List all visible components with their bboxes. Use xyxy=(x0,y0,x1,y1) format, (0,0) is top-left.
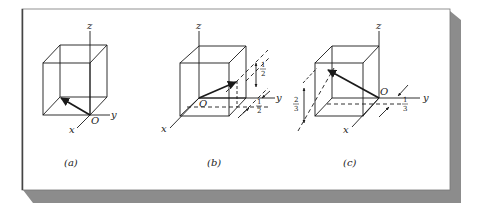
fraction-b-horizontal: 1 2 xyxy=(256,98,262,115)
origin-label-a: O xyxy=(91,115,99,126)
cube-direction-figure: z y x O (a) 1 2 1 xyxy=(0,0,481,211)
caption-b: (b) xyxy=(207,157,221,168)
y-label-a: y xyxy=(110,109,117,120)
y-label-b: y xyxy=(275,92,282,103)
fraction-c-horizontal: 1 3 xyxy=(402,96,408,113)
svg-text:1: 1 xyxy=(257,98,261,106)
figure-frame xyxy=(22,9,450,190)
y-label-c: y xyxy=(422,92,429,103)
caption-a: (a) xyxy=(64,157,78,168)
svg-text:1: 1 xyxy=(261,61,265,69)
x-label-c: x xyxy=(343,124,349,135)
origin-label-b: O xyxy=(199,98,207,109)
svg-text:2: 2 xyxy=(294,96,298,104)
z-label-b: z xyxy=(195,20,202,31)
x-label-b: x xyxy=(161,123,167,134)
svg-text:1: 1 xyxy=(403,96,407,104)
caption-c: (c) xyxy=(343,157,357,168)
fraction-b-vertical: 1 2 xyxy=(260,61,266,78)
svg-text:3: 3 xyxy=(294,105,298,113)
svg-text:3: 3 xyxy=(403,105,407,113)
z-label-a: z xyxy=(86,20,93,31)
fraction-c-vertical: 2 3 xyxy=(293,96,299,113)
x-label-a: x xyxy=(69,124,75,135)
svg-text:2: 2 xyxy=(257,107,261,115)
origin-label-c: O xyxy=(380,86,388,97)
z-label-c: z xyxy=(375,20,382,31)
svg-text:2: 2 xyxy=(261,70,265,78)
